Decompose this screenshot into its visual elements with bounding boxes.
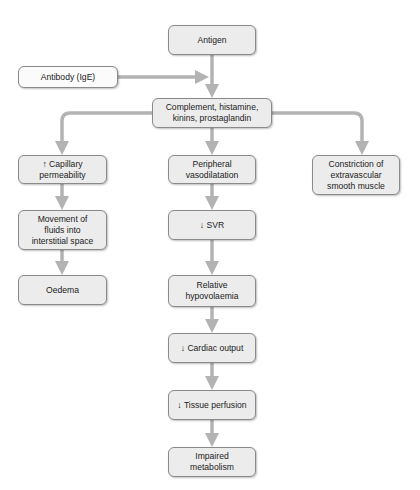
- node-label: ↓ SVR: [200, 220, 224, 231]
- node-oedema: Oedema: [18, 275, 107, 305]
- arrow-mediators-constriction: [272, 113, 362, 148]
- node-antigen: Antigen: [168, 25, 256, 55]
- node-svr: ↓ SVR: [168, 210, 256, 240]
- node-label: ↓ Cardiac output: [181, 343, 244, 354]
- node-capillary-permeability: ↑ Capillary permeability: [18, 155, 107, 184]
- node-label: Antigen: [197, 35, 226, 46]
- node-smooth-muscle-constriction: Constriction of extravascular smooth mus…: [312, 155, 400, 195]
- node-cardiac-output: ↓ Cardiac output: [168, 333, 256, 363]
- node-mediators: Complement, histamine, kinins, prostagla…: [152, 98, 272, 128]
- node-label: Complement, histamine, kinins, prostagla…: [166, 102, 259, 124]
- node-label: Impaired metabolism: [190, 451, 234, 473]
- node-tissue-perfusion: ↓ Tissue perfusion: [168, 390, 256, 420]
- node-label: ↓ Tissue perfusion: [177, 400, 246, 411]
- node-label: Constriction of extravascular smooth mus…: [327, 159, 385, 192]
- node-label: Oedema: [46, 285, 79, 296]
- node-label: Antibody (IgE): [41, 72, 95, 83]
- node-label: Peripheral vasodilatation: [186, 159, 239, 181]
- node-relative-hypovolaemia: Relative hypovolaemia: [168, 275, 256, 307]
- node-fluid-movement: Movement of fluids into interstitial spa…: [18, 210, 107, 250]
- node-impaired-metabolism: Impaired metabolism: [168, 447, 256, 477]
- node-peripheral-vasodilatation: Peripheral vasodilatation: [168, 155, 256, 184]
- node-label: Movement of fluids into interstitial spa…: [32, 214, 94, 247]
- arrow-mediators-capillary: [62, 113, 152, 148]
- node-antibody: Antibody (IgE): [18, 66, 118, 88]
- node-label: Relative hypovolaemia: [185, 280, 238, 302]
- node-label: ↑ Capillary permeability: [39, 159, 85, 181]
